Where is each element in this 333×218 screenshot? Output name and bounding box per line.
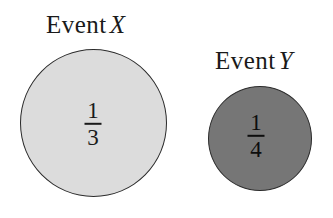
event-x-probability-fraction: 1 3 — [85, 99, 102, 149]
event-y-label-variable: Y — [276, 47, 293, 74]
event-x-denominator: 3 — [87, 126, 99, 149]
event-y-probability-fraction: 1 4 — [248, 111, 265, 161]
probability-circles-figure: EventX 1 3 EventY 1 4 — [0, 0, 333, 218]
event-x-numerator: 1 — [87, 99, 99, 122]
event-y-denominator: 4 — [250, 138, 262, 161]
event-x-label-prefix: Event — [46, 11, 107, 38]
event-x-label-variable: X — [107, 11, 126, 38]
event-x-label: EventX — [46, 11, 126, 39]
event-y-label-prefix: Event — [215, 47, 276, 74]
event-y-numerator: 1 — [250, 111, 262, 134]
event-y-label: EventY — [215, 47, 293, 75]
